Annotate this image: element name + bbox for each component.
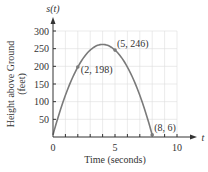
y-axis-label-line2: (feet) — [16, 73, 28, 95]
y-tick-label: 100 — [34, 96, 49, 107]
point-marker — [150, 133, 154, 137]
x-tick-label: 10 — [172, 142, 182, 153]
y-tick-label: 250 — [34, 43, 49, 54]
y-tick-label: 200 — [34, 61, 49, 72]
tick-labels: 051050100150200250300 — [34, 26, 182, 154]
height-vs-time-chart: 051050100150200250300 (2, 198)(5, 246)(8… — [0, 0, 208, 172]
y-tick-label: 300 — [34, 26, 49, 37]
x-tick-label: 5 — [113, 142, 118, 153]
point-label: (8, 6) — [154, 122, 176, 134]
point-marker — [76, 65, 80, 69]
y-axis-var: s(t) — [46, 3, 60, 15]
y-axis-label-line1: Height above Ground — [5, 41, 16, 128]
y-tick-label: 150 — [34, 79, 49, 90]
y-tick-label: 50 — [39, 114, 49, 125]
x-axis-var: t — [202, 132, 205, 143]
point-label: (5, 246) — [117, 38, 149, 50]
point-annotations: (2, 198)(5, 246)(8, 6) — [76, 38, 176, 137]
point-label: (2, 198) — [81, 64, 113, 76]
x-axis-label: Time (seconds) — [84, 154, 146, 166]
x-tick-label: 0 — [51, 142, 56, 153]
